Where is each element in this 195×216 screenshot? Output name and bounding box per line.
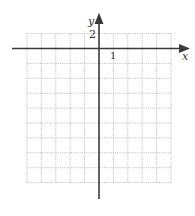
- x-tick-label: 1: [110, 50, 116, 61]
- y-axis-label: y: [87, 15, 95, 28]
- coordinate-plane: y 2 1 x: [0, 0, 195, 216]
- y-tick-label: 2: [89, 28, 96, 41]
- x-axis-label: x: [182, 50, 189, 63]
